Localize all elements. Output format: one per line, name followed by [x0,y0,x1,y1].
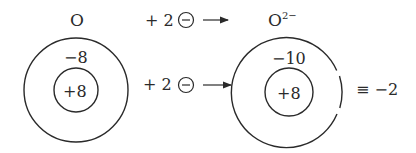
oxygen-atom-label: O [70,10,84,30]
oxide-shell-charge: −10 [272,49,306,68]
ion-formation-diagram: O + 2 O2− −8 +8 + 2 −10 +8 ≡ −2 [0,0,416,153]
oxide-ion-label: O2− [268,10,297,30]
net-charge-equivalence: ≡ −2 [356,80,398,99]
oxygen-shell-charge: −8 [64,48,88,67]
oxygen-nucleus-charge: +8 [63,82,87,101]
top-plus-two: + 2 [145,11,174,30]
middle-plus-two: + 2 [143,75,172,94]
oxide-nucleus-charge: +8 [277,84,301,103]
